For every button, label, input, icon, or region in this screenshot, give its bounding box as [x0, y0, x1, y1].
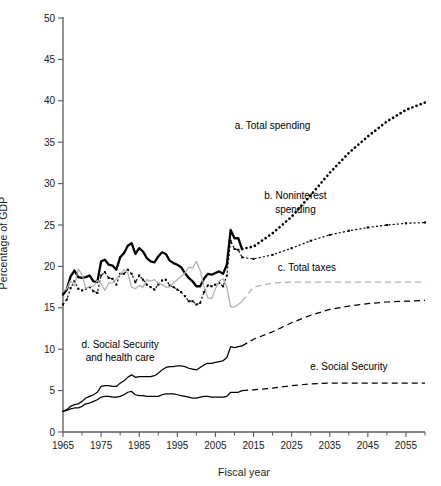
series-marker: [153, 289, 155, 291]
series-marker: [131, 273, 133, 275]
series-annotation-b2: spending: [275, 204, 316, 215]
series-marker: [161, 279, 163, 281]
series-annotation-e: e. Social Security: [310, 361, 387, 372]
y-tick-label: 35: [44, 137, 56, 148]
series-marker: [62, 303, 64, 305]
series-marker: [272, 254, 274, 256]
series-marker: [291, 247, 293, 249]
series-marker: [195, 303, 197, 305]
series-marker: [92, 290, 94, 292]
series-marker: [199, 302, 201, 304]
x-tick-label: 2055: [395, 440, 418, 451]
x-tick-label: 1985: [128, 440, 151, 451]
series-marker: [172, 286, 174, 288]
series-5: [63, 383, 425, 411]
plot-area: 05101520253035404550 1965197519851995200…: [0, 0, 441, 486]
series-marker: [214, 284, 216, 286]
series-annotation-b: b. Noninterest: [264, 190, 326, 201]
series-projection-line: [242, 223, 425, 259]
series-annotation-d: d. Social Security: [82, 339, 159, 350]
x-axis-ticks: 1965197519851995200520152025203520452055: [52, 432, 425, 451]
series-marker: [184, 295, 186, 297]
series-marker: [77, 288, 79, 290]
series-marker: [241, 256, 243, 258]
series-marker: [203, 291, 205, 293]
x-tick-label: 1965: [52, 440, 75, 451]
series-marker: [405, 222, 407, 224]
series-2: [62, 221, 426, 305]
series-marker: [134, 281, 136, 283]
series-marker: [70, 287, 72, 289]
series-marker: [207, 284, 209, 286]
series-marker: [111, 278, 113, 280]
series-marker: [104, 271, 106, 273]
x-tick-label: 1975: [90, 440, 113, 451]
y-tick-label: 45: [44, 54, 56, 65]
series-annotation-c: c. Total taxes: [278, 262, 336, 273]
series-1: [63, 102, 425, 294]
series-marker: [127, 269, 129, 271]
x-tick-label: 2005: [204, 440, 227, 451]
series-marker: [237, 249, 239, 251]
series-marker: [386, 224, 388, 226]
chart-figure: Percentage of GDP Fiscal year 0510152025…: [0, 0, 441, 486]
series-marker: [211, 285, 213, 287]
x-tick-label: 2035: [319, 440, 342, 451]
y-tick-label: 10: [44, 344, 56, 355]
series-marker: [176, 289, 178, 291]
y-axis-ticks: 05101520253035404550: [44, 13, 63, 438]
series-marker: [233, 248, 235, 250]
x-tick-label: 2025: [281, 440, 304, 451]
series-marker: [108, 277, 110, 279]
series-marker: [138, 274, 140, 276]
series-marker: [96, 292, 98, 294]
series-marker: [142, 279, 144, 281]
y-tick-label: 0: [49, 427, 55, 438]
series-marker: [252, 258, 254, 260]
series-marker: [348, 230, 350, 232]
y-tick-label: 50: [44, 13, 56, 24]
x-tick-label: 1995: [166, 440, 189, 451]
series-marker: [115, 284, 117, 286]
series-marker: [222, 285, 224, 287]
series-marker: [188, 300, 190, 302]
series-marker: [180, 291, 182, 293]
series-marker: [100, 274, 102, 276]
series-marker: [150, 286, 152, 288]
series-marker: [81, 289, 83, 291]
series-marker: [192, 300, 194, 302]
series-marker: [367, 226, 369, 228]
y-tick-label: 40: [44, 95, 56, 106]
series-marker: [66, 298, 68, 300]
y-tick-label: 20: [44, 261, 56, 272]
series-projection-line: [242, 282, 425, 301]
series-annotation-d2: and health care: [86, 352, 155, 363]
series-marker: [226, 274, 228, 276]
series-marker: [424, 221, 426, 223]
series-annotation-a: a. Total spending: [235, 120, 310, 131]
series-marker: [230, 240, 232, 242]
series-projection-line: [242, 300, 425, 346]
series-marker: [310, 240, 312, 242]
y-tick-label: 15: [44, 302, 56, 313]
series-history-line: [63, 391, 242, 412]
y-tick-label: 25: [44, 220, 56, 231]
x-tick-label: 2045: [357, 440, 380, 451]
series-projection-line: [242, 383, 425, 390]
x-tick-label: 2015: [242, 440, 265, 451]
series-marker: [123, 273, 125, 275]
series-marker: [146, 284, 148, 286]
series-marker: [329, 234, 331, 236]
y-tick-label: 30: [44, 178, 56, 189]
y-tick-label: 5: [49, 385, 55, 396]
series-marker: [165, 279, 167, 281]
